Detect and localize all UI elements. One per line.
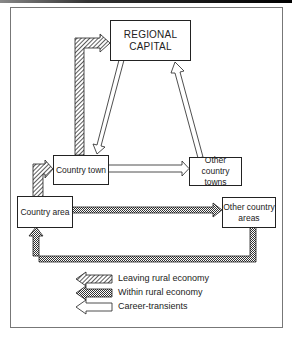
- node-other-country-towns: Other country towns: [189, 157, 242, 186]
- node-label: areas: [238, 213, 259, 224]
- node-regional-capital: REGIONAL CAPITAL: [110, 20, 191, 61]
- node-label: CAPITAL: [129, 41, 171, 53]
- node-country-town: Country town: [53, 155, 109, 185]
- legend-hatched-arrow: [76, 272, 112, 286]
- legend-white-arrow: [76, 300, 112, 314]
- arrow-area-to-town: [33, 160, 53, 197]
- arrow-area-to-other-areas: [72, 203, 222, 217]
- legend-label-leaving: Leaving rural economy: [118, 273, 209, 283]
- node-other-country-areas: Other country areas: [222, 197, 276, 228]
- arrow-capital-to-town: [93, 60, 124, 154]
- node-label: towns: [204, 177, 226, 188]
- node-label: Country town: [56, 165, 106, 176]
- node-country-area: Country area: [17, 196, 73, 228]
- legend-checkered-arrow: [76, 286, 112, 300]
- arrow-other-towns-to-capital: [171, 62, 203, 158]
- legend-label-career: Career-transients: [118, 301, 188, 311]
- node-label: REGIONAL: [124, 29, 177, 41]
- arrow-town-to-capital: [75, 34, 110, 155]
- node-label: Other country: [190, 155, 241, 177]
- node-label: Country area: [20, 207, 69, 218]
- node-label: Other country: [223, 202, 275, 213]
- arrow-other-areas-to-area: [29, 227, 256, 262]
- arrow-town-to-other-towns: [108, 161, 189, 176]
- legend-label-within: Within rural economy: [118, 287, 203, 297]
